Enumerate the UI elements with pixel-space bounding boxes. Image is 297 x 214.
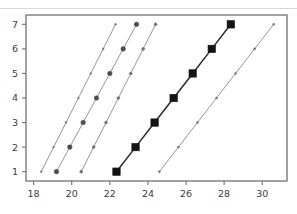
window-top-edge <box>0 0 297 9</box>
y-tick-label: 1 <box>12 166 18 177</box>
chart-background <box>0 9 297 214</box>
data-point-circle <box>121 47 126 52</box>
chart-window: 18202224262830 1234567 <box>0 0 297 214</box>
x-tick-label: 30 <box>256 188 268 199</box>
scatter-chart-svg: 18202224262830 1234567 <box>0 9 297 214</box>
x-tick-label: 20 <box>66 188 78 199</box>
x-tick-label: 24 <box>142 188 154 199</box>
data-point-dot <box>235 72 237 74</box>
data-point-dot <box>254 48 256 50</box>
data-point-dot <box>115 23 117 25</box>
data-point-circle <box>94 96 99 101</box>
x-tick-label: 26 <box>180 188 192 199</box>
data-point-circle <box>81 120 86 125</box>
data-point-dot <box>158 171 160 173</box>
data-point-square <box>189 70 196 77</box>
data-point-square <box>132 143 139 150</box>
data-point-circle <box>54 169 59 174</box>
data-point-dot <box>90 72 92 74</box>
data-point-circle <box>134 22 139 27</box>
data-point-dot <box>65 122 67 124</box>
y-tick-label: 6 <box>12 43 18 54</box>
data-point-dot <box>196 122 198 124</box>
y-tick-label: 4 <box>12 92 18 103</box>
data-point-square <box>151 119 158 126</box>
data-point-dot <box>177 146 179 148</box>
data-point-square <box>113 168 120 175</box>
data-point-square <box>227 21 234 28</box>
data-point-dot <box>102 48 104 50</box>
chart-plot-container: 18202224262830 1234567 <box>0 9 297 214</box>
data-point-circle <box>108 71 113 76</box>
y-tick-label: 3 <box>12 117 18 128</box>
data-point-circle <box>68 145 73 150</box>
y-tick-label: 2 <box>12 142 18 153</box>
data-point-dot <box>215 97 217 99</box>
data-point-dot <box>40 171 42 173</box>
y-tick-label: 7 <box>12 19 18 30</box>
data-point-square <box>170 94 177 101</box>
x-tick-label: 22 <box>104 188 116 199</box>
data-point-square <box>208 45 215 52</box>
y-tick-label: 5 <box>12 68 18 79</box>
data-point-dot <box>77 97 79 99</box>
x-tick-label: 18 <box>28 188 40 199</box>
x-tick-label: 28 <box>218 188 230 199</box>
data-point-dot <box>53 146 55 148</box>
data-point-dot <box>273 23 275 25</box>
